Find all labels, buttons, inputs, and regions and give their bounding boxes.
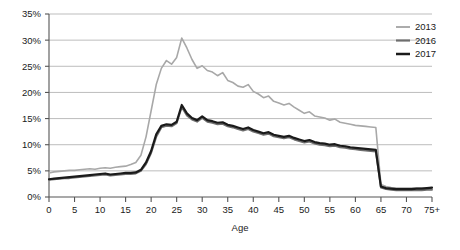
y-tick-label-35: 35%	[22, 8, 42, 19]
x-tick-label-70: 70	[401, 204, 412, 215]
x-axis-title: Age	[232, 222, 249, 233]
x-tick-label-0: 0	[46, 204, 51, 215]
y-tick-label-10: 10%	[22, 139, 42, 150]
chart-legend: 201320162017	[396, 21, 436, 59]
x-tick-label-10: 10	[95, 204, 106, 215]
x-tick-label-65: 65	[376, 204, 387, 215]
legend-label-2016: 2016	[415, 35, 436, 46]
x-tick-label-5: 5	[72, 204, 77, 215]
line-chart: 0%5%10%15%20%25%30%35% 05101520253035404…	[0, 0, 460, 250]
y-tick-label-5: 5%	[27, 165, 41, 176]
x-tick-label-35: 35	[222, 204, 233, 215]
x-tick-label-40: 40	[248, 204, 259, 215]
y-tick-label-0: 0%	[27, 191, 41, 202]
x-tick-label-30: 30	[197, 204, 208, 215]
legend-label-2013: 2013	[415, 21, 436, 32]
y-tick-label-25: 25%	[22, 61, 42, 72]
chart-container: 0%5%10%15%20%25%30%35% 05101520253035404…	[0, 0, 460, 250]
x-tick-label-50: 50	[299, 204, 310, 215]
x-tick-label-45: 45	[274, 204, 285, 215]
x-tick-label-75+: 75+	[424, 204, 441, 215]
x-tick-label-15: 15	[120, 204, 131, 215]
x-tick-label-55: 55	[325, 204, 336, 215]
y-tick-label-15: 15%	[22, 113, 42, 124]
x-tick-label-20: 20	[146, 204, 157, 215]
x-tick-label-25: 25	[171, 204, 182, 215]
x-tick-label-60: 60	[350, 204, 361, 215]
y-tick-label-30: 30%	[22, 35, 42, 46]
y-tick-label-20: 20%	[22, 87, 42, 98]
legend-label-2017: 2017	[415, 48, 436, 59]
